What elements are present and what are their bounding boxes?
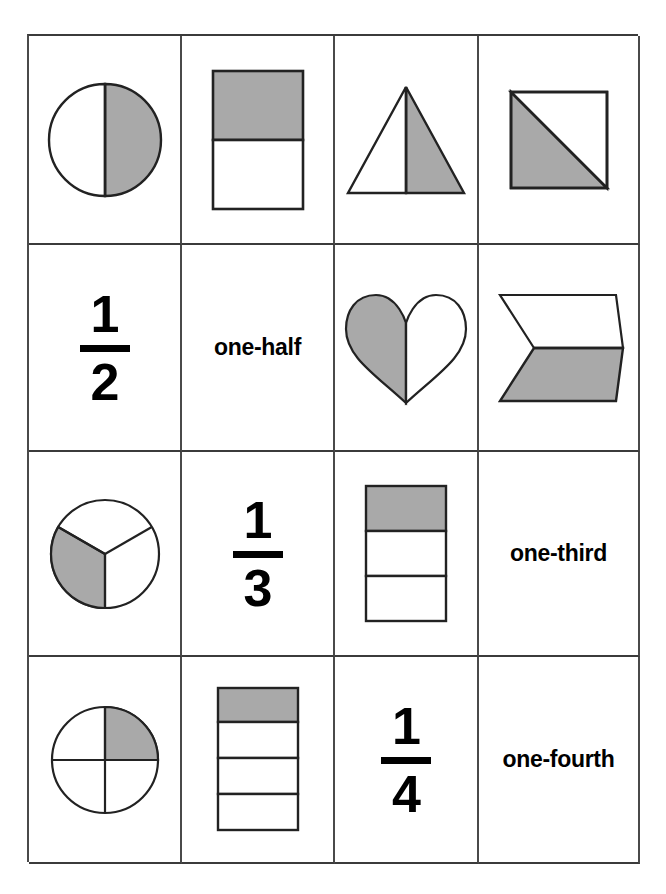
fraction-card[interactable]: one-half (182, 245, 335, 452)
fraction-card[interactable] (335, 245, 479, 452)
parallelogram-halves-icon (492, 290, 626, 406)
fraction-one-half: 1 2 (80, 288, 130, 408)
fraction-card[interactable] (182, 36, 335, 245)
fraction-word-label: one-fourth (503, 746, 615, 773)
fraction-bar (381, 757, 431, 764)
fraction-card[interactable] (479, 245, 640, 452)
fraction-card[interactable] (29, 452, 182, 657)
fraction-bar (233, 551, 283, 558)
rectangle-halves-shape (182, 36, 333, 243)
circle-halves-icon (46, 81, 164, 199)
rectangle-thirds-shape (335, 452, 477, 655)
fraction-card[interactable] (182, 657, 335, 864)
fraction-card[interactable]: 1 2 (29, 245, 182, 452)
fraction-card[interactable] (335, 452, 479, 657)
fraction-word-label: one-third (510, 540, 607, 567)
circle-halves-shape (29, 36, 180, 243)
circle-quarters-icon (49, 704, 161, 816)
fraction-card[interactable] (479, 36, 640, 245)
fraction-card[interactable]: one-fourth (479, 657, 640, 864)
triangle-halves-icon (345, 84, 467, 196)
square-diagonal-halves-shape (479, 36, 638, 243)
square-diagonal-halves-icon (508, 89, 610, 191)
heart-halves-icon (343, 289, 469, 407)
fraction-one-third: 1 3 (233, 494, 283, 614)
rectangle-thirds-icon (364, 484, 448, 624)
rectangle-halves-icon (211, 69, 305, 211)
fraction-one-fourth: 1 4 (381, 700, 431, 820)
fraction-word-label: one-half (214, 334, 301, 361)
fraction-card[interactable]: 1 3 (182, 452, 335, 657)
fraction-card[interactable] (29, 657, 182, 864)
fraction-denominator: 3 (244, 562, 272, 614)
parallelogram-halves-shape (479, 245, 638, 450)
fraction-cards-grid: 1 2 one-half (27, 34, 638, 862)
fraction-bar (80, 345, 130, 352)
fraction-numerator: 1 (91, 288, 119, 340)
circle-thirds-icon (48, 497, 162, 611)
heart-halves-shape (335, 245, 477, 450)
fraction-denominator: 4 (392, 768, 420, 820)
fraction-cards-sheet: 1 2 one-half (27, 34, 638, 862)
fraction-numerator: 1 (392, 700, 420, 752)
fraction-card[interactable]: 1 4 (335, 657, 479, 864)
fraction-denominator: 2 (91, 356, 119, 408)
circle-thirds-shape (29, 452, 180, 655)
fraction-card[interactable] (29, 36, 182, 245)
fraction-card[interactable]: one-third (479, 452, 640, 657)
triangle-halves-shape (335, 36, 477, 243)
fraction-card[interactable] (335, 36, 479, 245)
circle-quarters-shape (29, 657, 180, 862)
fraction-numerator: 1 (244, 494, 272, 546)
rectangle-fourths-shape (182, 657, 333, 862)
rectangle-fourths-icon (216, 686, 300, 834)
